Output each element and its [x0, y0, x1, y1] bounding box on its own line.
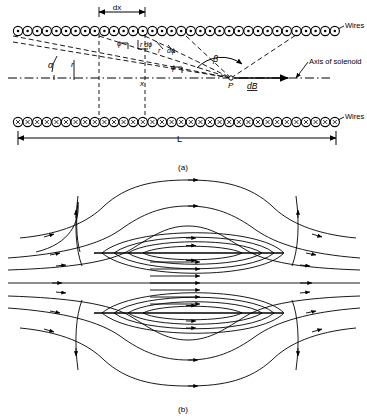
top-winding-row	[13, 26, 344, 36]
point-p-marker	[229, 76, 233, 80]
exterior-field-lines-lower	[8, 296, 360, 386]
caption-panel-a: (a)	[178, 163, 188, 172]
label-alpha: α	[48, 60, 54, 70]
angle-beta-marker	[197, 57, 242, 68]
label-phi-upper: ϕ	[117, 39, 122, 48]
label-point-p: P	[228, 81, 234, 90]
label-axis-of-solenoid: Axis of solenoid	[309, 57, 362, 66]
figure-svg: dx Wires Wires ϕ ϕ r dϕ r dϕ α r β P dB …	[0, 0, 367, 419]
label-inner-r: r	[71, 60, 74, 69]
axis-leader-line	[296, 62, 308, 78]
label-dphi: dϕ	[167, 47, 175, 55]
figure-root: dx Wires Wires ϕ ϕ r dϕ r dϕ α r β P dB …	[0, 0, 367, 419]
label-wires-top: Wires	[345, 21, 364, 30]
label-beta: β	[212, 54, 218, 64]
label-r: r	[158, 47, 161, 54]
exterior-field-lines-upper	[8, 180, 360, 270]
label-phi-lower: ϕ	[171, 63, 176, 72]
label-r-dphi: r dϕ	[140, 41, 152, 49]
panel-a	[8, 7, 344, 145]
caption-panel-b: (b)	[178, 405, 188, 414]
panel-b	[8, 180, 360, 386]
label-x-distance: x	[139, 79, 145, 88]
label-dx: dx	[113, 3, 121, 12]
dx-dimension	[99, 7, 145, 17]
label-length-l: L	[177, 134, 182, 144]
bottom-winding-row	[13, 117, 344, 127]
label-db: dB	[247, 81, 258, 91]
construction-lines	[13, 35, 296, 78]
label-wires-bottom: Wires	[345, 112, 364, 121]
